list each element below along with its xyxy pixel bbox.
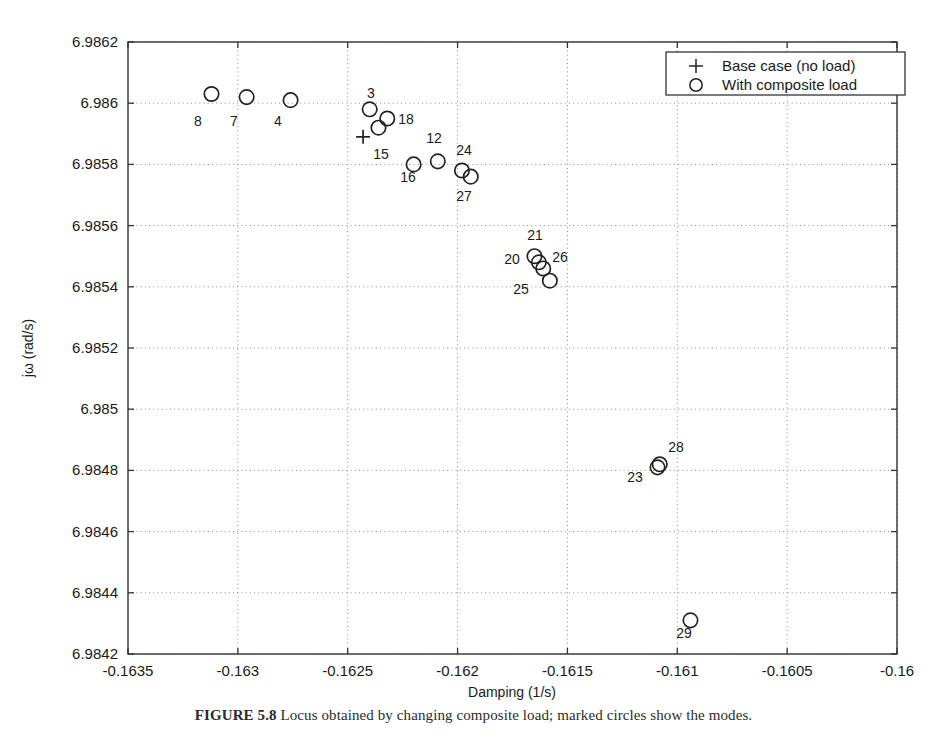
axis-frame xyxy=(128,42,897,654)
data-point-circle xyxy=(371,120,385,134)
data-point-label: 20 xyxy=(504,251,520,267)
data-point-label: 3 xyxy=(367,85,375,101)
data-point-label: 29 xyxy=(676,625,692,641)
caption-text: Locus obtained by changing composite loa… xyxy=(277,707,753,723)
data-point-label: 21 xyxy=(527,227,543,243)
point-labels: 874315181612242721202625232829 xyxy=(194,85,692,641)
data-point-label: 27 xyxy=(456,188,472,204)
data-point-label: 8 xyxy=(194,113,202,129)
caption-label: FIGURE 5.8 xyxy=(195,707,277,723)
y-tick-label: 6.9856 xyxy=(72,217,118,234)
y-tick-label: 6.9862 xyxy=(72,33,118,50)
data-point-label: 24 xyxy=(456,142,472,158)
data-point-label: 12 xyxy=(426,130,442,146)
legend-label-base-case: Base case (no load) xyxy=(722,57,855,74)
y-tick-label: 6.9848 xyxy=(72,461,118,478)
y-axis-title: jω (rad/s) xyxy=(20,319,36,378)
y-tick-label: 6.9854 xyxy=(72,278,118,295)
figure-caption: FIGURE 5.8 Locus obtained by changing co… xyxy=(0,705,947,725)
data-point-circle xyxy=(239,90,253,104)
axis-ticks xyxy=(128,42,897,654)
x-tick-label: -0.1605 xyxy=(762,662,813,679)
x-tick-label: -0.1615 xyxy=(542,662,593,679)
y-tick-labels: 6.98426.98446.98466.98486.9856.98526.985… xyxy=(72,33,118,662)
y-tick-label: 6.9858 xyxy=(72,155,118,172)
legend: Base case (no load) With composite load xyxy=(666,52,905,95)
data-point-label: 28 xyxy=(668,439,684,455)
data-point-plus xyxy=(356,130,370,144)
y-tick-label: 6.986 xyxy=(80,94,118,111)
y-tick-label: 6.9852 xyxy=(72,339,118,356)
x-tick-label: -0.161 xyxy=(656,662,699,679)
y-tick-label: 6.9842 xyxy=(72,645,118,662)
gridlines xyxy=(128,42,897,654)
data-point-label: 25 xyxy=(513,281,529,297)
x-tick-label: -0.163 xyxy=(217,662,260,679)
x-tick-label: -0.16 xyxy=(880,662,914,679)
data-point-label: 7 xyxy=(230,113,238,129)
data-point-circle xyxy=(283,93,297,107)
data-point-circle xyxy=(204,87,218,101)
figure-container: -0.1635-0.163-0.1625-0.162-0.1615-0.161-… xyxy=(0,0,947,736)
x-tick-label: -0.162 xyxy=(436,662,479,679)
x-tick-labels: -0.1635-0.163-0.1625-0.162-0.1615-0.161-… xyxy=(103,662,915,679)
y-tick-label: 6.9846 xyxy=(72,523,118,540)
x-axis-title: Damping (1/s) xyxy=(468,684,556,700)
y-tick-label: 6.9844 xyxy=(72,584,118,601)
data-point-circle xyxy=(431,154,445,168)
x-tick-label: -0.1635 xyxy=(103,662,154,679)
data-markers xyxy=(204,87,697,628)
data-point-label: 18 xyxy=(398,111,414,127)
data-point-label: 23 xyxy=(627,469,643,485)
data-point-circle xyxy=(543,273,557,287)
data-point-label: 15 xyxy=(373,146,389,162)
scatter-plot: -0.1635-0.163-0.1625-0.162-0.1615-0.161-… xyxy=(0,0,947,736)
data-point-label: 4 xyxy=(274,113,282,129)
data-point-circle xyxy=(362,102,376,116)
legend-label-composite-load: With composite load xyxy=(722,76,857,93)
y-tick-label: 6.985 xyxy=(80,400,118,417)
data-point-label: 26 xyxy=(552,249,568,265)
data-point-label: 16 xyxy=(400,169,416,185)
data-point-circle xyxy=(380,111,394,125)
x-tick-label: -0.1625 xyxy=(322,662,373,679)
